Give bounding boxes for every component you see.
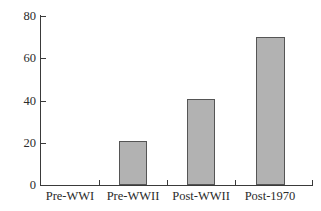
bar-post-wwii — [187, 99, 215, 185]
x-axis-tick-2 — [167, 180, 168, 185]
bar-post-1970 — [256, 37, 285, 185]
y-axis-tick-80 — [41, 16, 46, 17]
y-axis-tick-20 — [41, 143, 46, 144]
y-axis-tick-60 — [41, 58, 46, 59]
x-axis-tick-4 — [312, 180, 313, 185]
y-axis-tick-40 — [41, 101, 46, 102]
y-axis-label-40: 40 — [6, 95, 36, 108]
y-axis-label-20: 20 — [6, 137, 36, 150]
y-axis-label-60: 60 — [6, 52, 36, 65]
bar-chart: 0 20 40 60 80 Pre-WWI Pre-WWII Post-WWII… — [0, 0, 321, 211]
y-axis-label-80: 80 — [6, 10, 36, 23]
y-axis-tick-0 — [41, 185, 46, 186]
x-axis-line — [40, 185, 313, 186]
bar-pre-wwii — [119, 141, 147, 185]
x-axis-category-label-post-1970: Post-1970 — [227, 190, 313, 204]
x-axis-tick-3 — [235, 180, 236, 185]
x-axis-tick-1 — [99, 180, 100, 185]
